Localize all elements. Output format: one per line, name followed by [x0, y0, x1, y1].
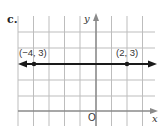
- x-axis-label: x: [152, 113, 158, 124]
- point-2-3: [125, 62, 130, 67]
- left-arrow-icon: [18, 61, 27, 68]
- point-label-2-3: (2, 3): [116, 47, 138, 58]
- coordinate-plane-figure: c. y x O (−4, 3) (2, 3): [0, 0, 166, 135]
- point-label-neg4-3: (−4, 3): [19, 47, 47, 58]
- point-neg4-3: [32, 62, 37, 67]
- origin-label: O: [88, 112, 96, 123]
- line-y-equals-3: [18, 61, 157, 68]
- part-label: c.: [7, 13, 18, 26]
- y-axis-label: y: [84, 13, 90, 24]
- grid-lines: [18, 16, 155, 126]
- y-axis: [93, 13, 99, 126]
- right-arrow-icon: [148, 61, 157, 68]
- graph-svg: [0, 0, 166, 135]
- y-axis-arrow-icon: [93, 13, 99, 21]
